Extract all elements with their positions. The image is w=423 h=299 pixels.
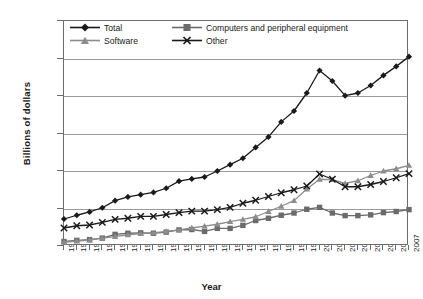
- legend-item-other: Other: [172, 35, 228, 46]
- legend-row-2: Software Other: [70, 34, 370, 47]
- legend-label-total: Total: [104, 23, 122, 33]
- legend-item-software: Software: [70, 35, 172, 46]
- legend-row-1: Total Computers and peripheral equipment: [70, 21, 370, 34]
- y-axis-title: Billions of dollars: [21, 54, 32, 194]
- legend-label-computers: Computers and peripheral equipment: [206, 23, 348, 33]
- line-chart: Billions of dollars Year 010020030040050…: [0, 0, 423, 299]
- series-total: [61, 54, 412, 223]
- legend-key-total-icon: [70, 22, 100, 33]
- legend-label-software: Software: [104, 36, 138, 46]
- legend-item-computers: Computers and peripheral equipment: [172, 22, 348, 33]
- legend-key-software-icon: [70, 35, 100, 46]
- legend-label-other: Other: [206, 36, 228, 46]
- x-tick-label-2007: 2007: [412, 234, 421, 252]
- legend-key-computers-icon: [172, 22, 202, 33]
- series-lines: [64, 21, 409, 246]
- legend-item-total: Total: [70, 22, 172, 33]
- plot-area: [63, 20, 408, 245]
- x-axis-title: Year: [0, 281, 423, 292]
- chart-legend: Total Computers and peripheral equipment…: [70, 21, 370, 47]
- legend-key-other-icon: [172, 35, 202, 46]
